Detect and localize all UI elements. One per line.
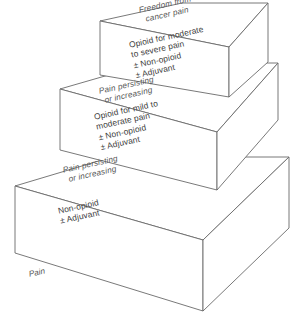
analgesic-ladder-diagram: Freedom from cancer pain Opioid for mode… — [0, 0, 299, 317]
